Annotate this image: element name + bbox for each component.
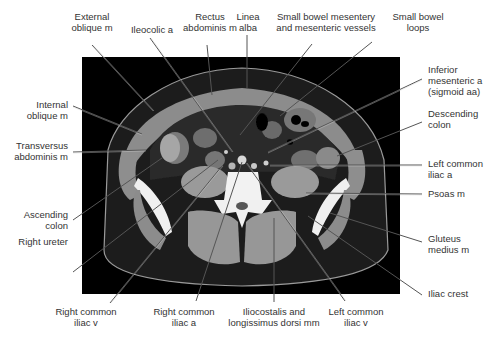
label-linea-alba: Linea alba [230,11,266,33]
ct-figure: External oblique m Ileocolic a Rectus ab… [0,0,492,345]
label-gluteus-medius-m: Gluteus medius m [428,233,492,255]
label-descending-colon: Descending colon [428,108,492,130]
label-left-common-iliac-a: Left common iliac a [428,158,492,180]
label-left-common-iliac-v: Left common iliac v [318,306,394,328]
label-right-common-iliac-v: Right common iliac v [48,306,124,328]
ct-image [0,0,492,345]
label-right-ureter: Right ureter [0,236,68,247]
label-psoas-m: Psoas m [428,188,492,199]
label-internal-oblique-m: Internal oblique m [0,99,68,121]
label-right-common-iliac-a: Right common iliac a [146,306,222,328]
label-transversus-abdominis-m: Transversus abdominis m [0,140,68,162]
label-small-bowel-loops: Small bowel loops [378,11,458,33]
label-iliocostalis-longissimus: Iliocostalis and longissimus dorsi mm [218,306,330,328]
label-ascending-colon: Ascending colon [0,209,68,231]
label-iliac-crest: Iliac crest [428,288,492,299]
label-small-bowel-mesentery: Small bowel mesentery and mesenteric ves… [262,11,390,33]
label-inferior-mesenteric-a: Inferior mesenteric a (sigmoid aa) [428,64,492,97]
